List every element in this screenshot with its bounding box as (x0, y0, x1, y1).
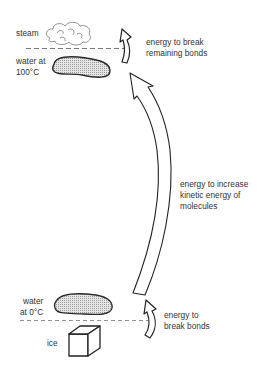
heat-arrow-icon (130, 73, 171, 295)
water-100-label-line1: water at (16, 56, 46, 67)
heat-label-line2: kinetic energy of (180, 190, 240, 201)
steam-cloud-icon (46, 22, 90, 45)
melt-arrow-icon (144, 300, 156, 338)
water-100-label-line2: 100°C (16, 67, 39, 78)
heat-label-line3: molecules (180, 201, 217, 212)
water-100-blob-icon (53, 57, 110, 77)
water-0-label-line1: water (23, 296, 43, 307)
ice-label: ice (47, 338, 58, 349)
ice-cube-icon (69, 326, 100, 356)
vaporize-label-line1: energy to break (146, 37, 204, 48)
steam-label: steam (16, 28, 39, 39)
vaporize-label-line2: remaining bonds (146, 48, 207, 59)
water-0-blob-icon (55, 294, 113, 315)
water-0-label-line2: at 0°C (20, 307, 43, 318)
melt-label-line2: break bonds (164, 321, 210, 332)
melt-label-line1: energy to (164, 310, 199, 321)
heat-label-line1: energy to increase (180, 179, 248, 190)
vaporize-arrow-icon (120, 29, 131, 63)
